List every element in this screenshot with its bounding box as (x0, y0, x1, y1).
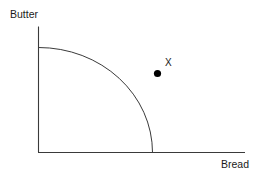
y-axis-title: Butter (10, 8, 38, 20)
data-point-x-marker (154, 70, 161, 77)
x-axis-title: Bread (221, 158, 249, 170)
ppf-curve (39, 48, 153, 153)
data-point-x-label: X (165, 58, 172, 68)
ppf-chart-figure: Butter Bread X (0, 0, 272, 177)
ppf-plot-canvas (0, 0, 272, 177)
